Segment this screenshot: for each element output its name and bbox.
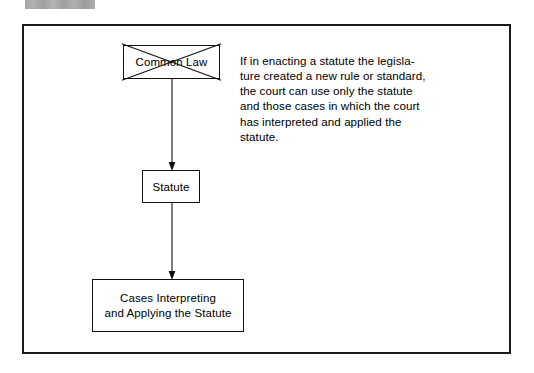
node-common-law-label: Common Law [136,55,208,69]
node-statute-label: Statute [152,180,189,194]
arrow-common-law-to-statute [165,79,179,171]
figure-frame: Common Law Statute Cases Interpreting an… [22,24,511,354]
figure-caption: If in enacting a statute the legisla- tu… [240,53,445,145]
arrow-statute-to-cases [165,203,179,280]
node-common-law: Common Law [123,45,220,79]
redaction-bar [25,0,95,9]
node-cases-interpreting: Cases Interpreting and Applying the Stat… [92,279,244,332]
node-statute: Statute [142,170,200,203]
node-cases-label: Cases Interpreting and Applying the Stat… [98,291,237,321]
